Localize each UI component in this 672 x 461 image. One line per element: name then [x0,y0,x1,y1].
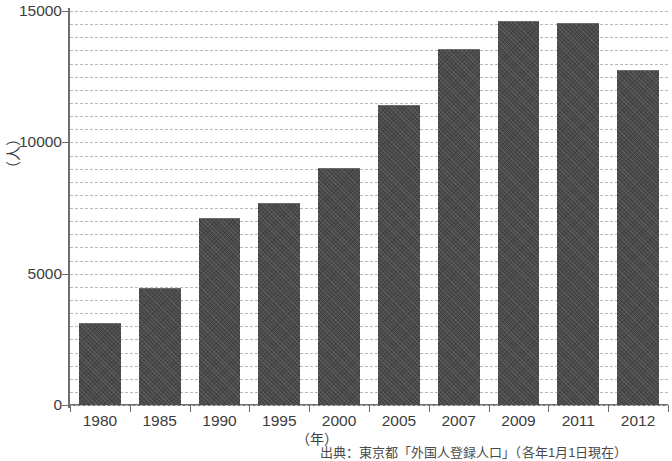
bar-series [70,11,668,405]
y-axis-tick [62,142,68,143]
bar [318,168,360,405]
bar [378,105,420,405]
bar [258,203,300,405]
bar [79,323,121,405]
y-axis-label: 0 [0,396,62,414]
bar [498,21,540,406]
y-axis-tick [62,274,68,275]
x-axis-tick [130,405,131,412]
bar [139,288,181,405]
y-axis-tick [62,11,68,12]
y-axis-tick [62,405,68,406]
x-axis-tick [429,405,430,412]
x-axis-tick [309,405,310,412]
x-axis-label: 1995 [262,412,296,430]
x-axis-label: 2011 [562,412,595,430]
x-axis-tick [489,405,490,412]
x-axis-label: 2012 [621,412,655,430]
x-axis-label: 1985 [142,412,176,430]
x-axis-tick [369,405,370,412]
bar [438,49,480,405]
bar [557,23,599,405]
x-axis-tick [70,405,71,412]
x-axis-tick [190,405,191,412]
y-axis-title: （人） [2,131,23,176]
x-axis-label: 2009 [501,412,535,430]
x-axis-label: 1990 [202,412,236,430]
x-axis-label: 1980 [83,412,117,430]
y-axis-label: 15000 [0,2,62,20]
x-axis-tick [668,405,669,412]
x-axis-tick [249,405,250,412]
bar [199,218,241,406]
x-axis-label: 2007 [441,412,475,430]
x-axis-tick [608,405,609,412]
y-axis-label: 5000 [0,265,62,283]
x-axis-label: 2005 [382,412,416,430]
bar [617,70,659,405]
x-axis-tick [548,405,549,412]
source-note: 出典：東京都「外国人登録人口」（各年1月1日現在） [320,442,627,461]
